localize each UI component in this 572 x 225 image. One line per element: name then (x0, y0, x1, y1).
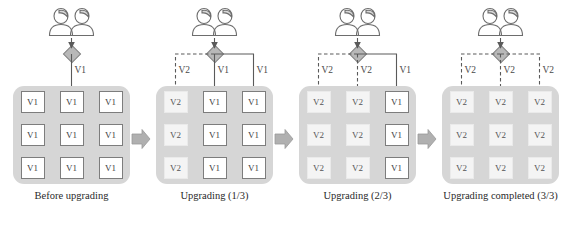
instance-node: V1 (21, 91, 45, 113)
instance-node: V1 (242, 91, 266, 113)
step-arrow-3-icon (417, 128, 437, 150)
instance-grid: V2V2V2V2V2V2V2V2V2 (442, 86, 559, 184)
step-arrow-3 (417, 128, 437, 150)
instance-node: V1 (385, 157, 409, 179)
route-label-panel-upgrading-2-col3: V1 (400, 66, 412, 76)
users-icon (330, 6, 386, 38)
instance-node: V2 (450, 124, 474, 146)
server-pool: V2V2V1V2V2V1V2V2V1 (299, 86, 416, 184)
instance-node: V1 (60, 91, 84, 113)
instance-node: V2 (346, 91, 370, 113)
step-arrow-2 (274, 128, 294, 150)
load-balancer-diamond-icon (62, 45, 80, 63)
instance-node: V1 (60, 124, 84, 146)
instance-node: V1 (21, 157, 45, 179)
step-arrow-2-icon (274, 128, 294, 150)
instance-node: V2 (307, 91, 331, 113)
instance-grid: V1V1V1V1V1V1V1V1V1 (13, 86, 130, 184)
users-group (473, 6, 529, 38)
instance-node: V2 (489, 124, 513, 146)
users-icon (44, 6, 100, 38)
instance-node: V1 (203, 91, 227, 113)
instance-grid: V2V2V1V2V2V1V2V2V1 (299, 86, 416, 184)
instance-node: V2 (164, 91, 188, 113)
instance-node: V2 (346, 157, 370, 179)
users-icon (187, 6, 243, 38)
users-icon (473, 6, 529, 38)
panel-upgrading-1: V2V1V1 V2V1V1V2V1V1V2V1V1 Upgrading (1/3… (143, 0, 286, 225)
instance-node: V1 (99, 157, 123, 179)
step-arrow-1 (131, 128, 151, 150)
users-group (187, 6, 243, 38)
panel-before: V1 V1V1V1V1V1V1V1V1V1 Before upgrading (0, 0, 143, 225)
instance-grid: V2V1V1V2V1V1V2V1V1 (156, 86, 273, 184)
route-label-panel-upgrading-2-col2: V2 (361, 66, 373, 76)
instance-node: V1 (60, 157, 84, 179)
panel-caption: Upgrading completed (3/3) (429, 190, 572, 201)
server-pool: V2V1V1V2V1V1V2V1V1 (156, 86, 273, 184)
instance-node: V1 (203, 157, 227, 179)
instance-node: V2 (528, 157, 552, 179)
instance-node: V2 (307, 157, 331, 179)
instance-node: V1 (385, 124, 409, 146)
instance-node: V1 (385, 91, 409, 113)
instance-node: V1 (242, 157, 266, 179)
users-group (330, 6, 386, 38)
instance-node: V2 (346, 124, 370, 146)
instance-node: V2 (307, 124, 331, 146)
instance-node: V2 (450, 91, 474, 113)
instance-node: V2 (450, 157, 474, 179)
server-pool: V1V1V1V1V1V1V1V1V1 (13, 86, 130, 184)
panel-caption: Upgrading (1/3) (143, 190, 286, 201)
route-label-panel-completed-col3: V2 (543, 66, 555, 76)
instance-node: V2 (164, 124, 188, 146)
route-label-panel-upgrading-1-col3: V1 (257, 66, 269, 76)
route-label-panel-before-col2: V1 (75, 66, 87, 76)
panel-completed: V2V2V2 V2V2V2V2V2V2V2V2V2 Upgrading comp… (429, 0, 572, 225)
route-label-panel-upgrading-2-col1: V2 (322, 66, 334, 76)
load-balancer-diamond-icon (348, 45, 366, 63)
step-arrow-1-icon (131, 128, 151, 150)
route-label-panel-completed-col2: V2 (504, 66, 516, 76)
load-balancer-diamond-icon (491, 45, 509, 63)
instance-node: V2 (528, 124, 552, 146)
instance-node: V2 (528, 91, 552, 113)
instance-node: V1 (203, 124, 227, 146)
instance-node: V1 (242, 124, 266, 146)
panel-caption: Before upgrading (0, 190, 143, 201)
users-group (44, 6, 100, 38)
instance-node: V2 (164, 157, 188, 179)
instance-node: V1 (21, 124, 45, 146)
panel-caption: Upgrading (2/3) (286, 190, 429, 201)
instance-node: V1 (99, 91, 123, 113)
instance-node: V1 (99, 124, 123, 146)
load-balancer-diamond-icon (205, 45, 223, 63)
server-pool: V2V2V2V2V2V2V2V2V2 (442, 86, 559, 184)
instance-node: V2 (489, 91, 513, 113)
panel-upgrading-2: V2V2V1 V2V2V1V2V2V1V2V2V1 Upgrading (2/3… (286, 0, 429, 225)
instance-node: V2 (489, 157, 513, 179)
route-label-panel-completed-col1: V2 (465, 66, 477, 76)
rolling-upgrade-diagram: V1 V1V1V1V1V1V1V1V1V1 Before upgrading V… (0, 0, 572, 225)
route-label-panel-upgrading-1-col2: V1 (218, 66, 230, 76)
route-label-panel-upgrading-1-col1: V2 (179, 66, 191, 76)
